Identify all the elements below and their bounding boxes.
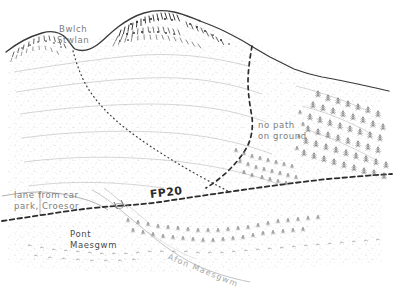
map-figure: Bwlch Stwlan no path on ground lane from… — [0, 0, 395, 295]
map-drawing — [0, 0, 395, 295]
moorland-stipple — [8, 12, 382, 272]
